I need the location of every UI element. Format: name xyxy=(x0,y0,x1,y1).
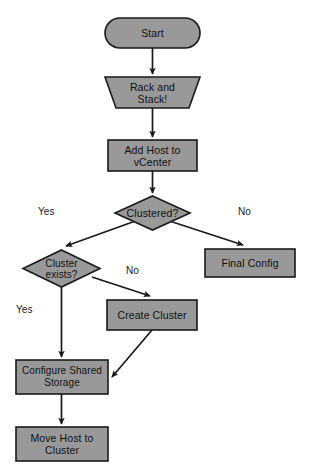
node-shape-add-host[interactable] xyxy=(108,140,197,171)
edge-label-clustered-yes: Yes xyxy=(38,206,55,217)
node-shape-rack-and-stack[interactable] xyxy=(105,77,200,108)
node-shape-cluster-exists[interactable] xyxy=(23,250,100,287)
edge-label-cluster-exists-yes: Yes xyxy=(16,304,33,315)
flowchart-canvas: Start Rack and Stack! Add Host to vCente… xyxy=(0,0,309,472)
edge-label-cluster-exists-no: No xyxy=(126,265,139,276)
node-shape-configure-storage[interactable] xyxy=(16,360,108,394)
edge-clustered-no-to-final-config xyxy=(171,222,243,246)
flowchart-graphics xyxy=(0,0,309,472)
node-shape-create-cluster[interactable] xyxy=(107,300,197,330)
node-shape-final-config[interactable] xyxy=(205,249,295,277)
node-shape-start[interactable] xyxy=(105,18,200,48)
edge-label-clustered-no: No xyxy=(238,206,251,217)
node-shape-move-host[interactable] xyxy=(16,427,108,461)
edge-create-cluster-to-configure-storage xyxy=(112,330,152,377)
edge-clustered-yes-to-cluster-exists xyxy=(66,222,134,247)
edge-cluster-exists-no-to-create-cluster xyxy=(92,277,150,296)
